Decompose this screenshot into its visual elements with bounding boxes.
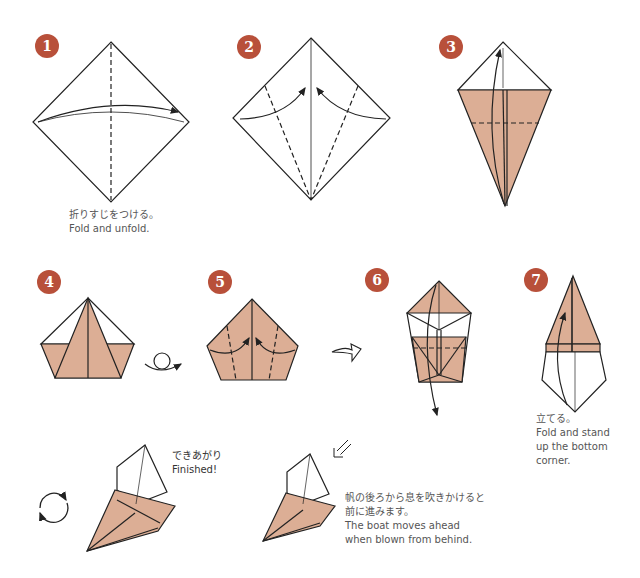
- usage-note-en-1: The boat moves ahead: [345, 519, 485, 533]
- step-5-badge: 5: [208, 270, 232, 294]
- step-7-caption-en-1: Fold and stand: [536, 426, 610, 440]
- step-4-badge: 4: [37, 270, 61, 294]
- step-5-figure: [207, 299, 298, 380]
- step-7-figure: [542, 276, 606, 412]
- step-7-badge: 7: [524, 268, 548, 292]
- step-3-badge: 3: [439, 35, 463, 59]
- step-1-caption: 折りすじをつける。 Fold and unfold.: [69, 208, 159, 236]
- rotate-icon: [40, 493, 68, 522]
- step-2-figure: [233, 38, 390, 200]
- next-step-arrow-icon: [332, 344, 361, 361]
- finished-boat-figure: [87, 445, 175, 551]
- finished-label-ja: できあがり: [172, 449, 222, 463]
- step-7-caption-en-3: corner.: [536, 454, 610, 468]
- usage-note: 帆の後ろから息を吹きかけると 前に進みます。 The boat moves ah…: [345, 491, 485, 547]
- blow-direction-arrow-icon: [334, 440, 351, 457]
- step-4-figure: [41, 298, 134, 378]
- turn-over-icon: [145, 353, 181, 370]
- step-1-figure: [33, 42, 189, 202]
- step-2-badge: 2: [237, 35, 261, 59]
- step-6-badge: 6: [365, 268, 389, 292]
- usage-note-ja-2: 前に進みます。: [345, 505, 485, 519]
- finished-label: できあがり Finished!: [172, 449, 222, 477]
- step-6-figure: [407, 281, 471, 415]
- finished-label-en: Finished!: [172, 463, 222, 477]
- step-1-caption-en: Fold and unfold.: [69, 222, 159, 236]
- step-7-caption-ja: 立てる。: [536, 412, 610, 426]
- step-1-caption-ja: 折りすじをつける。: [69, 208, 159, 222]
- step-1-badge: 1: [35, 34, 59, 58]
- blowing-boat-figure: [263, 454, 335, 541]
- step-7-caption-en-2: up the bottom: [536, 440, 610, 454]
- step-7-caption: 立てる。 Fold and stand up the bottom corner…: [536, 412, 610, 468]
- step-3-figure: [458, 42, 551, 206]
- origami-diagram: [0, 0, 640, 578]
- usage-note-en-2: when blown from behind.: [345, 533, 485, 547]
- usage-note-ja-1: 帆の後ろから息を吹きかけると: [345, 491, 485, 505]
